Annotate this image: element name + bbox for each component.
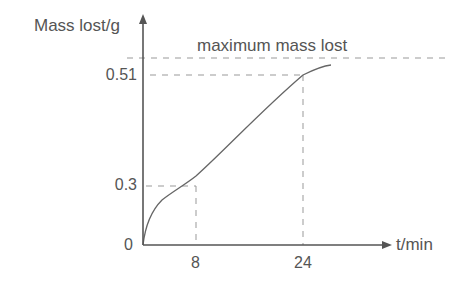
x-tick-24: 24 [294, 254, 312, 272]
y-tick-0.51: 0.51 [106, 66, 137, 84]
y-axis-arrow-icon [139, 14, 147, 24]
x-tick-8: 8 [191, 254, 200, 272]
y-tick-0.3: 0.3 [115, 176, 137, 194]
x-axis-arrow-icon [382, 241, 392, 249]
x-axis-label: t/min [396, 235, 433, 255]
y-tick-0: 0 [124, 236, 133, 254]
max-mass-annotation: maximum mass lost [197, 36, 347, 56]
y-axis-label: Mass lost/g [34, 16, 120, 36]
